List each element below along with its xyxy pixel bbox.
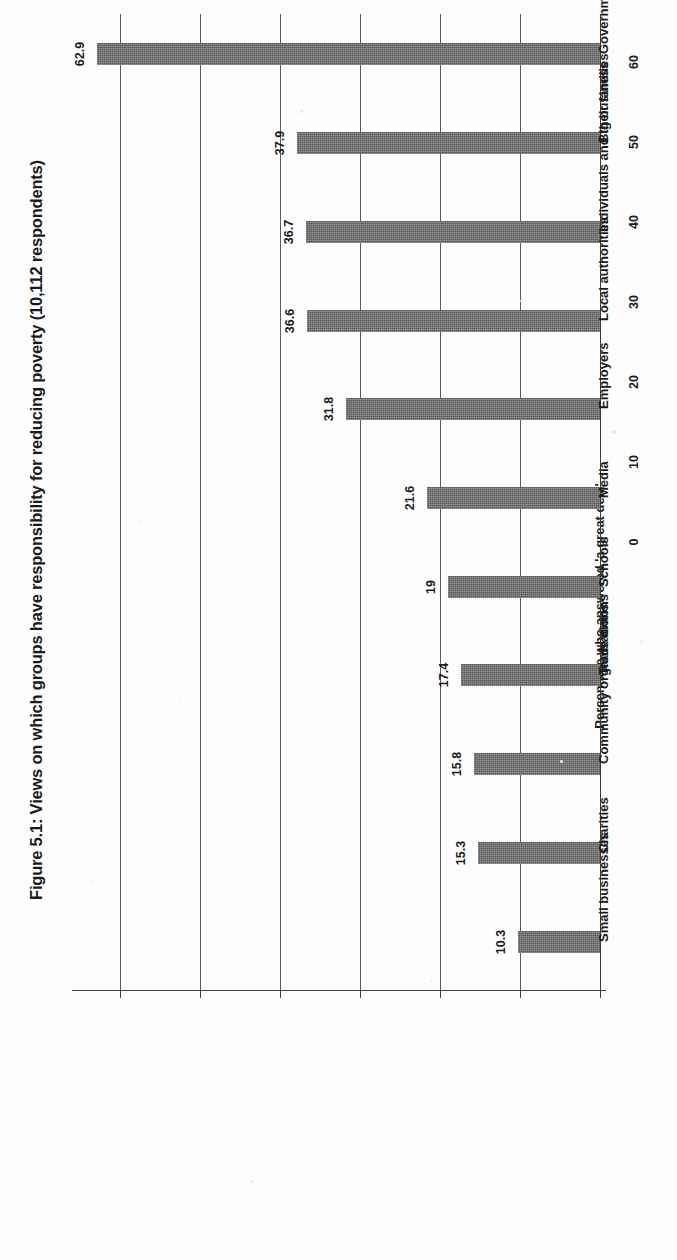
value-tick (360, 991, 361, 998)
value-tick (440, 991, 441, 998)
category-label: Schools (595, 536, 613, 587)
figure-page: Figure 5.1: Views on which groups have r… (0, 0, 677, 1260)
bar[interactable] (478, 842, 600, 864)
bar-value-label: 31.8 (321, 386, 337, 432)
value-tick-label: 10 (626, 442, 642, 482)
bar[interactable] (448, 576, 600, 598)
category-label: Local authorities (595, 217, 613, 321)
value-tick-label: 40 (626, 202, 642, 242)
bar-value-label: 62.9 (72, 31, 88, 77)
value-tick-label: 50 (626, 122, 642, 162)
category-label: Media (595, 461, 613, 498)
value-tick-label: 60 (626, 42, 642, 82)
bar-value-label: 15.8 (449, 741, 465, 787)
bar-value-label: 37.9 (272, 120, 288, 166)
category-label: Small businesses (595, 833, 613, 942)
bar-value-label: 19 (423, 564, 439, 610)
value-tick-label: 30 (626, 282, 642, 322)
bar[interactable] (346, 398, 600, 420)
bar[interactable] (306, 221, 600, 243)
category-label: Community organisations (595, 604, 613, 764)
category-axis-line (72, 990, 606, 991)
bar[interactable] (474, 753, 600, 775)
bar-value-label: 15.3 (453, 830, 469, 876)
bar-value-label: 36.7 (281, 209, 297, 255)
plot-area: 010203040506062.9Government37.9Big busin… (72, 14, 600, 990)
bar[interactable] (427, 487, 600, 509)
bar[interactable] (307, 310, 600, 332)
gridline (360, 14, 361, 990)
category-label: Government (595, 0, 613, 54)
gridline (200, 14, 201, 990)
category-label: Individuals and their families (595, 53, 613, 231)
value-tick-label: 20 (626, 362, 642, 402)
bar[interactable] (461, 664, 600, 686)
page-title: Figure 5.1: Views on which groups have r… (21, 298, 51, 918)
value-tick (520, 991, 521, 998)
value-tick-label: 0 (626, 522, 642, 562)
value-tick (280, 991, 281, 998)
category-label: Employers (595, 343, 613, 409)
bar[interactable] (518, 931, 600, 953)
bar-value-label: 10.3 (493, 919, 509, 965)
value-tick (120, 991, 121, 998)
scan-speckle (612, 430, 616, 434)
bar-value-label: 17.4 (436, 652, 452, 698)
value-tick (200, 991, 201, 998)
bar[interactable] (297, 132, 600, 154)
bar-value-label: 21.6 (402, 475, 418, 521)
gridline (120, 14, 121, 990)
bar[interactable] (97, 43, 600, 65)
value-tick (600, 991, 601, 998)
scan-speckle (250, 1180, 253, 1183)
bar-value-label: 36.6 (282, 298, 298, 344)
scan-speckle (640, 640, 643, 643)
